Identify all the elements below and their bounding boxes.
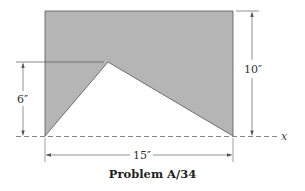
x-axis-label: x [281, 130, 288, 143]
width-label: 15″ [133, 149, 151, 162]
arrowhead-up-icon [250, 12, 253, 18]
arrowhead-down-icon [250, 131, 253, 137]
height-total-label: 10″ [244, 63, 262, 76]
figure-caption: Problem A/34 [0, 167, 305, 181]
arrowhead-up-icon [21, 63, 24, 69]
arrowhead-left-icon [46, 153, 52, 156]
shaded-area [45, 11, 233, 136]
arrowhead-down-icon [21, 131, 24, 137]
figure-diagram: x 10″ 6″ 15″ [0, 0, 305, 191]
apex-height-label: 6″ [17, 93, 28, 106]
arrowhead-right-icon [227, 153, 233, 156]
